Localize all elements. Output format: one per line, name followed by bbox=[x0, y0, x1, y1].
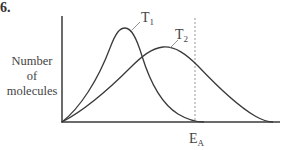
t1-label: T1 bbox=[141, 10, 154, 27]
t1-label-sub: 1 bbox=[150, 17, 155, 27]
t1-leader-line bbox=[132, 22, 140, 30]
t2-label: T2 bbox=[175, 27, 188, 44]
ea-label-main: E bbox=[189, 131, 198, 146]
ea-label-sub: A bbox=[198, 138, 205, 148]
distribution-plot: T1 T2 EA bbox=[0, 0, 281, 150]
t2-label-sub: 2 bbox=[184, 34, 189, 44]
activation-energy-label: EA bbox=[189, 131, 205, 148]
curve-t2 bbox=[62, 47, 273, 122]
